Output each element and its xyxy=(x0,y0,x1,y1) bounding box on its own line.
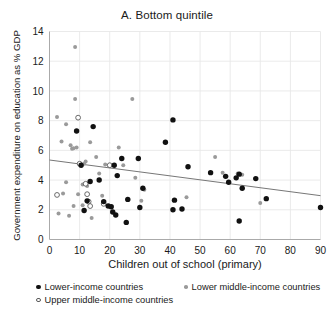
filled-circle-icon xyxy=(36,285,41,290)
legend-row-2: Upper middle-income countries xyxy=(36,294,334,307)
chart-figure: A. Bottom quintile Government expenditur… xyxy=(0,0,334,324)
svg-text:40: 40 xyxy=(164,245,176,256)
svg-text:14: 14 xyxy=(32,26,44,37)
legend-label-upper-middle-income: Upper middle-income countries xyxy=(45,294,174,306)
svg-text:6: 6 xyxy=(38,145,44,156)
legend-item-lower-middle-income: Lower middle-income countries xyxy=(184,281,320,293)
svg-text:0: 0 xyxy=(38,234,44,245)
svg-text:10: 10 xyxy=(74,245,86,256)
svg-text:80: 80 xyxy=(285,245,297,256)
svg-text:4: 4 xyxy=(38,175,44,186)
svg-text:0: 0 xyxy=(47,245,53,256)
legend-item-upper-middle-income: Upper middle-income countries xyxy=(36,294,173,306)
svg-text:2: 2 xyxy=(38,204,44,215)
svg-text:12: 12 xyxy=(32,56,44,67)
legend-item-lower-income: Lower-income countries xyxy=(36,281,143,293)
legend-label-lower-middle-income: Lower middle-income countries xyxy=(192,281,321,293)
svg-text:70: 70 xyxy=(255,245,267,256)
hollow-circle-icon xyxy=(36,298,41,303)
legend-row-1: Lower-income countries Lower middle-inco… xyxy=(36,281,334,294)
svg-text:20: 20 xyxy=(104,245,116,256)
x-axis-label: Children out of school (primary) xyxy=(40,258,330,270)
svg-text:50: 50 xyxy=(194,245,206,256)
trendline xyxy=(50,160,321,196)
svg-text:10: 10 xyxy=(32,86,44,97)
x-tick-labels: 0102030405060708090 xyxy=(47,245,327,256)
legend-label-lower-income: Lower-income countries xyxy=(45,281,144,293)
svg-text:90: 90 xyxy=(315,245,327,256)
svg-text:8: 8 xyxy=(38,115,44,126)
scatter-plot-canvas: 02468101214 0102030405060708090 xyxy=(0,0,334,324)
chart-legend: Lower-income countries Lower middle-inco… xyxy=(36,281,334,307)
gray-circle-icon xyxy=(184,285,188,289)
data-points xyxy=(55,45,324,225)
svg-text:60: 60 xyxy=(225,245,237,256)
svg-text:30: 30 xyxy=(134,245,146,256)
y-tick-labels: 02468101214 xyxy=(32,26,44,245)
